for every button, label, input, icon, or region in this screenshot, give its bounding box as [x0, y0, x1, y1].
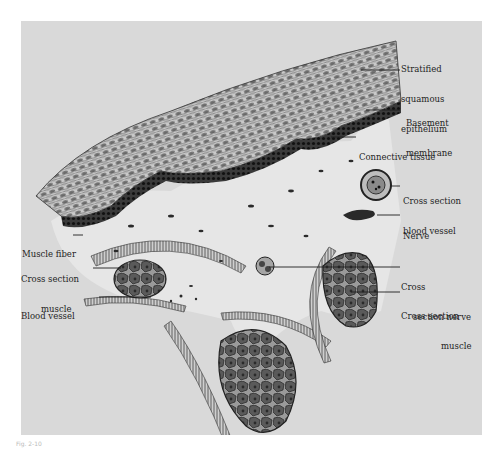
- cross-section-blood-vessel: [361, 170, 391, 200]
- cross-section-muscle-bottom: [219, 330, 296, 433]
- cross-section-muscle-right: [323, 253, 377, 327]
- figure-caption: Fig. 2-10: [16, 440, 42, 447]
- label-connective-tissue: Connective tissue: [359, 132, 435, 172]
- label-blood-vessel: Blood vessel: [21, 291, 75, 331]
- cross-section-muscle-left: [114, 260, 166, 298]
- cross-section-nerve: [256, 257, 274, 275]
- label-cross-section-muscle-right: Cross section muscle: [401, 291, 471, 361]
- label-nerve: Nerve: [403, 211, 429, 251]
